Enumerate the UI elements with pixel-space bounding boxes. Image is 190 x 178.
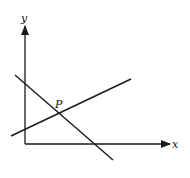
intersection-point-label: P xyxy=(54,98,63,111)
descending-line xyxy=(15,75,113,160)
coordinate-diagram: y x P xyxy=(0,0,190,178)
y-axis-label: y xyxy=(20,12,28,25)
x-axis-label: x xyxy=(172,138,179,151)
